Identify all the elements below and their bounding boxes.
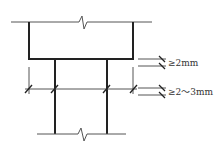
- bottom-break-line: [37, 128, 126, 141]
- cap-outline: [29, 22, 133, 59]
- upper-gap-label: ≥2mm: [168, 58, 199, 68]
- lower-gap-label: ≥2～3mm: [168, 87, 214, 97]
- detail-drawing: ≥2mm ≥2～3mm: [0, 0, 224, 158]
- lower-gap-dimension: ≥2～3mm: [138, 85, 214, 98]
- top-break-line: [11, 16, 152, 29]
- upper-gap-dimension: ≥2mm: [138, 56, 199, 69]
